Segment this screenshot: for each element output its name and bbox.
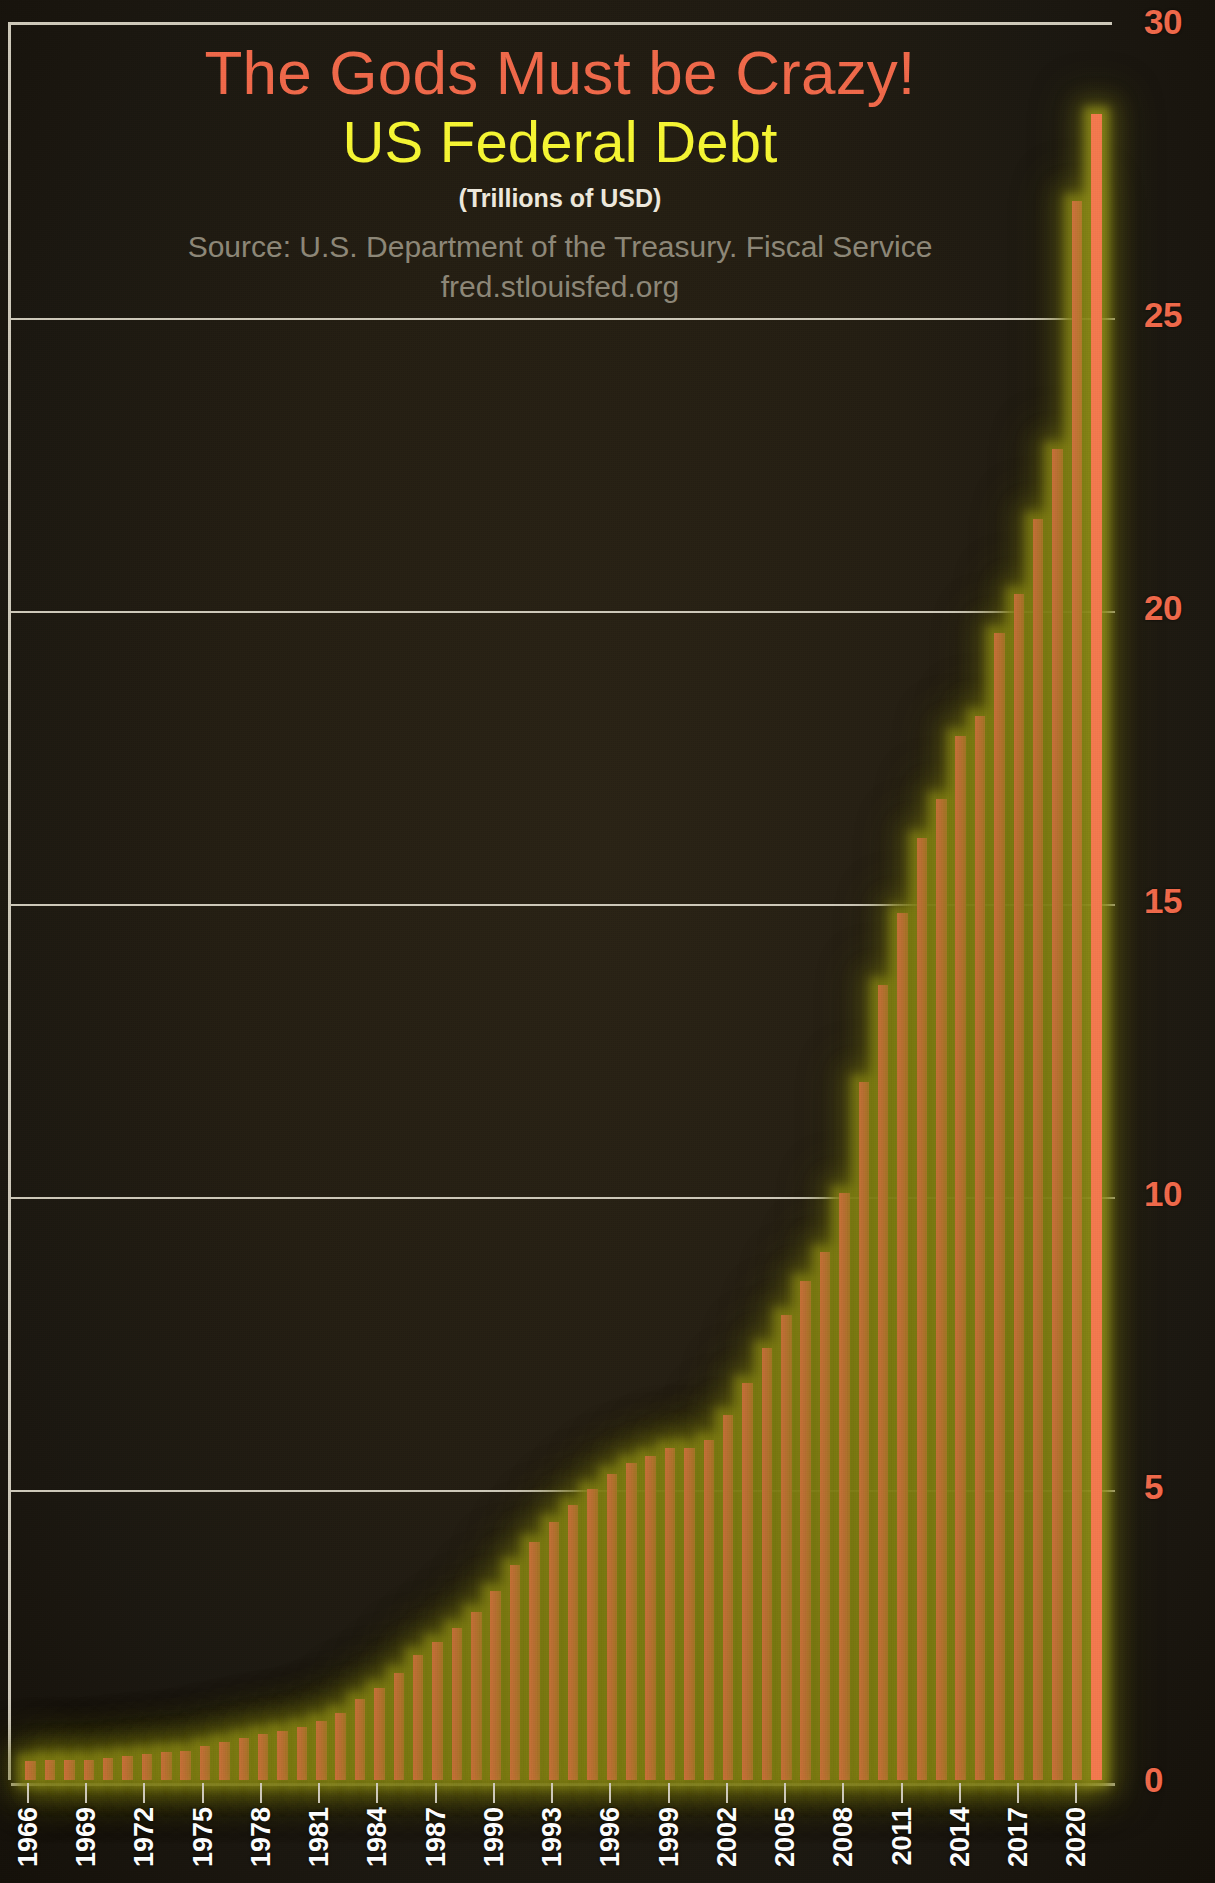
bar-1986[interactable] [413,1655,423,1780]
bar-1969[interactable] [84,1760,94,1781]
bar-2005[interactable] [781,1315,791,1780]
x-tick-mark-2017 [1017,1783,1019,1803]
bar-slot [854,25,873,1780]
bar-slot [21,25,40,1780]
bar-1981[interactable] [316,1721,326,1780]
bar-1976[interactable] [219,1742,229,1780]
x-axis-slot: 1978 [251,1783,270,1883]
x-tick-mark-1987 [435,1783,437,1803]
bar-1997[interactable] [626,1463,636,1780]
bar-2009[interactable] [859,1082,869,1780]
x-tick-mark-2005 [784,1783,786,1803]
bar-slot [312,25,331,1780]
bar-2020[interactable] [1072,201,1082,1780]
bar-slot [544,25,563,1780]
bar-1977[interactable] [239,1738,249,1780]
bar-1966[interactable] [25,1761,35,1780]
bar-2014[interactable] [955,736,965,1780]
bar-2000[interactable] [684,1448,694,1780]
bar-2021[interactable] [1091,114,1101,1780]
bar-slot [254,25,273,1780]
bar-slot [195,25,214,1780]
bar-slot [719,25,738,1780]
bar-1993[interactable] [549,1522,559,1780]
bar-1983[interactable] [355,1699,365,1780]
bar-1998[interactable] [645,1456,655,1780]
x-axis-slot: 1972 [135,1783,154,1883]
bar-1971[interactable] [122,1756,132,1780]
bar-2002[interactable] [723,1415,733,1780]
bar-1968[interactable] [64,1760,74,1781]
bar-slot [137,25,156,1780]
bar-2019[interactable] [1052,449,1062,1780]
bar-1999[interactable] [665,1448,675,1780]
bar-1979[interactable] [277,1731,287,1780]
bar-1978[interactable] [258,1734,268,1780]
y-axis: 051015202530 [1118,0,1215,1883]
bar-1975[interactable] [200,1746,210,1780]
bar-1992[interactable] [529,1542,539,1780]
bar-1967[interactable] [45,1760,55,1780]
bar-2013[interactable] [936,799,946,1780]
bar-1988[interactable] [452,1628,462,1780]
bar-slot [777,25,796,1780]
y-axis-label-5: 5 [1144,1467,1163,1507]
bar-1973[interactable] [161,1752,171,1780]
bar-1994[interactable] [568,1505,578,1780]
x-axis-slot [37,1783,56,1883]
bar-2010[interactable] [878,985,888,1780]
bar-2012[interactable] [917,838,927,1780]
x-axis-slot [329,1783,348,1883]
bar-1980[interactable] [297,1727,307,1780]
bar-2017[interactable] [1014,594,1024,1780]
bar-1985[interactable] [394,1673,404,1780]
bar-slot [486,25,505,1780]
bar-1974[interactable] [180,1751,190,1780]
bar-slot [738,25,757,1780]
bar-slot [893,25,912,1780]
y-axis-label-20: 20 [1144,588,1182,628]
bar-slot [60,25,79,1780]
bar-2007[interactable] [820,1252,830,1780]
x-tick-mark-1996 [609,1783,611,1803]
bar-2016[interactable] [994,633,1004,1780]
bar-slot [99,25,118,1780]
bar-slot [835,25,854,1780]
bar-1990[interactable] [490,1591,500,1780]
bar-1987[interactable] [432,1642,442,1780]
x-axis-slot [387,1783,406,1883]
bar-1995[interactable] [587,1489,597,1780]
x-axis-slot: 1975 [193,1783,212,1883]
bar-slot [815,25,834,1780]
x-axis-slot [212,1783,231,1883]
bar-1989[interactable] [471,1612,481,1780]
bar-1991[interactable] [510,1565,520,1780]
y-axis-label-0: 0 [1144,1760,1163,1800]
x-axis-slot: 1966 [18,1783,37,1883]
bar-2004[interactable] [762,1348,772,1780]
bar-2008[interactable] [839,1193,849,1780]
bar-slot [932,25,951,1780]
bar-1972[interactable] [142,1754,152,1780]
x-tick-mark-1993 [551,1783,553,1803]
bar-1984[interactable] [374,1688,384,1780]
bar-slot [370,25,389,1780]
bar-2003[interactable] [742,1383,752,1780]
bar-slot [79,25,98,1780]
x-tick-mark-1972 [143,1783,145,1803]
x-axis-slot [96,1783,115,1883]
bar-1996[interactable] [607,1474,617,1780]
bar-2001[interactable] [704,1440,714,1780]
x-axis-slot [911,1783,930,1883]
x-axis-slot: 1993 [542,1783,561,1883]
bar-2011[interactable] [897,913,907,1780]
bar-1970[interactable] [103,1758,113,1780]
bar-2006[interactable] [800,1281,810,1780]
x-axis-slot: 1969 [76,1783,95,1883]
x-axis-slot [504,1783,523,1883]
bar-2018[interactable] [1033,519,1043,1780]
x-axis-slot: 1990 [484,1783,503,1883]
bar-2015[interactable] [975,716,985,1780]
bar-1982[interactable] [335,1713,345,1780]
x-axis-slot [562,1783,581,1883]
